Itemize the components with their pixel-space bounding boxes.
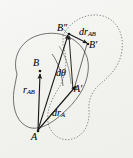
angle-arc-d-theta-outer bbox=[59, 46, 71, 84]
label-A-prime: A' bbox=[74, 84, 82, 94]
label-d-theta: dθ bbox=[56, 68, 66, 78]
point-B-double-prime-dot bbox=[68, 33, 71, 36]
label-B: B bbox=[33, 58, 39, 68]
point-B-dot bbox=[39, 70, 42, 73]
initial-body-outline bbox=[13, 33, 88, 128]
label-r-AB: rAB bbox=[23, 85, 35, 96]
label-dr-A: drA bbox=[52, 108, 65, 119]
label-dr-AB: drAB bbox=[79, 27, 96, 38]
vector-r-AB bbox=[38, 74, 40, 130]
label-B-double-prime: B″ bbox=[57, 23, 67, 33]
label-A: A bbox=[31, 132, 37, 142]
kinematics-figure: B″ drAB B' B dθ A' rAB drA A bbox=[0, 0, 133, 158]
label-B-prime: B' bbox=[89, 40, 97, 50]
